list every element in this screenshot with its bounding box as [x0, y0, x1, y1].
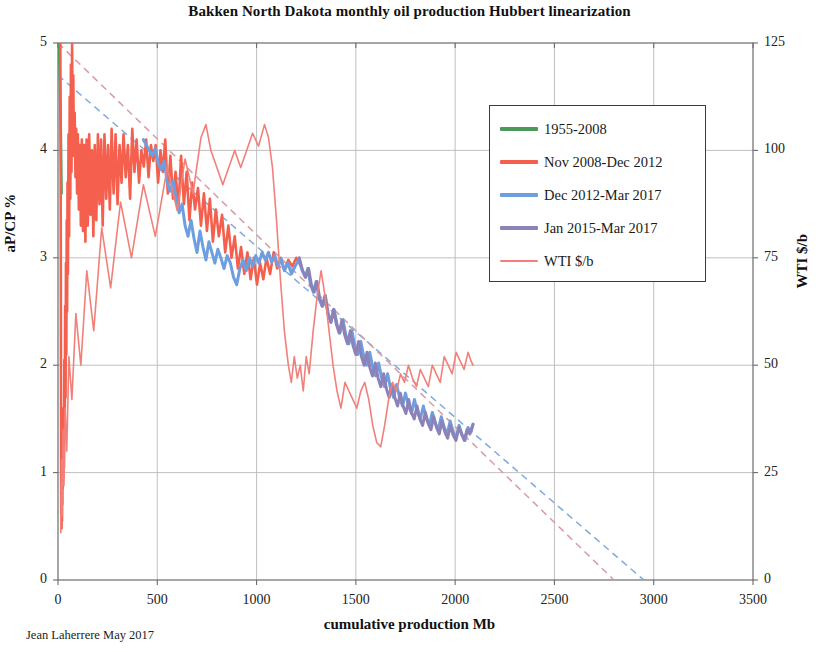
x-tick-label: 1500: [326, 592, 386, 608]
legend-item-2[interactable]: Dec 2012-Mar 2017: [500, 180, 662, 210]
series-nov-2008-dec-2012: [60, 43, 299, 528]
legend-label: Nov 2008-Dec 2012: [544, 154, 662, 171]
legend-color-swatch: [500, 127, 538, 132]
y-axis-label-right: WTI $/b: [794, 265, 811, 289]
y-tick-label-right: 125: [764, 34, 804, 50]
y-tick-label-left: 2: [13, 356, 47, 372]
series-wti-b: [61, 125, 473, 533]
y-tick-label-right: 25: [764, 464, 804, 480]
attribution-text: Jean Laherrere May 2017: [26, 628, 154, 643]
x-tick-label: 500: [127, 592, 187, 608]
y-tick-label-right: 75: [764, 249, 804, 265]
y-tick-label-right: 50: [764, 356, 804, 372]
legend-item-1[interactable]: Nov 2008-Dec 2012: [500, 147, 662, 177]
legend-color-swatch: [500, 260, 538, 262]
x-tick-label: 2000: [425, 592, 485, 608]
legend-item-3[interactable]: Jan 2015-Mar 2017: [500, 213, 658, 243]
y-tick-label-left: 4: [13, 141, 47, 157]
chart-plot-svg: [0, 0, 819, 652]
legend-color-swatch: [500, 193, 538, 198]
legend-item-0[interactable]: 1955-2008: [500, 114, 607, 144]
y-tick-label-right: 0: [764, 571, 804, 587]
y-tick-label-left: 5: [13, 34, 47, 50]
legend-label: 1955-2008: [544, 121, 607, 138]
legend-label: WTI $/b: [544, 253, 594, 270]
legend-label: Dec 2012-Mar 2017: [544, 187, 662, 204]
legend-color-swatch: [500, 160, 538, 165]
y-tick-label-left: 1: [13, 464, 47, 480]
x-tick-label: 3000: [624, 592, 684, 608]
x-tick-label: 3500: [723, 592, 783, 608]
legend-color-swatch: [500, 226, 538, 231]
legend-item-4[interactable]: WTI $/b: [500, 246, 594, 276]
hubbert-linearization-chart: Bakken North Dakota monthly oil producti…: [0, 0, 819, 652]
x-tick-label: 0: [28, 592, 88, 608]
x-tick-label: 1000: [227, 592, 287, 608]
chart-legend: 1955-2008Nov 2008-Dec 2012Dec 2012-Mar 2…: [489, 105, 706, 282]
y-tick-label-left: 0: [13, 571, 47, 587]
x-tick-label: 2500: [524, 592, 584, 608]
y-tick-label-left: 3: [13, 249, 47, 265]
y-tick-label-right: 100: [764, 141, 804, 157]
legend-label: Jan 2015-Mar 2017: [544, 220, 658, 237]
